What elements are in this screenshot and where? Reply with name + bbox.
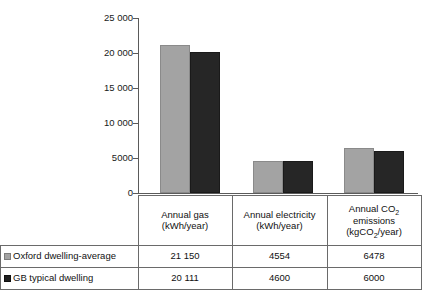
bar-gb-annual-electricity — [283, 161, 313, 193]
header-line-2: (kWh/year) — [256, 220, 302, 231]
bar-gb-annual-co2-emissions — [374, 151, 404, 193]
header-sub-1: 2 — [395, 209, 399, 216]
column-header-annual-electricity: Annual electricity (kWh/year) — [232, 196, 327, 246]
cell-gb-annual-gas: 20 111 — [138, 267, 232, 289]
header-line-1: Annual electricity — [244, 209, 316, 220]
table-row: GB typical dwelling 20 111 4600 6000 — [1, 267, 422, 289]
cell-oxford-annual-co2-emissions: 6478 — [327, 245, 421, 267]
header-line-2: (kWh/year) — [162, 220, 208, 231]
bar-oxford-annual-co2-emissions — [344, 148, 374, 193]
bars-layer — [138, 18, 418, 193]
cell-oxford-annual-gas: 21 150 — [138, 245, 232, 267]
light-swatch-icon — [4, 253, 11, 260]
dark-swatch-icon — [4, 275, 11, 282]
header-line-1: Annual gas — [161, 209, 209, 220]
cell-gb-annual-co2-emissions: 6000 — [327, 267, 421, 289]
y-axis-label-15000: 15 000 — [73, 83, 133, 93]
y-axis-label-20000: 20 000 — [73, 48, 133, 58]
column-header-annual-co2-emissions: Annual CO2 emissions (kgCO2/year) — [327, 196, 421, 246]
data-table-wrap: Annual gas (kWh/year) Annual electricity… — [0, 195, 431, 289]
cell-gb-annual-electricity: 4600 — [232, 267, 327, 289]
y-axis-label-10000: 10 000 — [73, 118, 133, 128]
plot-area: 25 000 20 000 15 000 10 000 5000 0 — [0, 0, 431, 196]
bar-oxford-annual-electricity — [253, 161, 283, 193]
legend-label: GB typical dwelling — [13, 272, 93, 283]
header-line-1: Annual CO — [349, 203, 395, 214]
legend-item-gb-typical-dwelling: GB typical dwelling — [1, 267, 139, 289]
table-header-row: Annual gas (kWh/year) Annual electricity… — [1, 196, 422, 246]
legend-label: Oxford dwelling-average — [13, 250, 116, 261]
legend-item-oxford-dwelling-average: Oxford dwelling-average — [1, 245, 139, 267]
header-spacer-cell — [1, 196, 139, 246]
table-row: Oxford dwelling-average 21 150 4554 6478 — [1, 245, 422, 267]
header-line-3a: (kgCO — [346, 226, 373, 237]
header-line-2: emissions — [353, 215, 395, 226]
bar-oxford-annual-gas — [160, 45, 190, 193]
cell-oxford-annual-electricity: 4554 — [232, 245, 327, 267]
y-axis-label-25000: 25 000 — [73, 13, 133, 23]
column-header-annual-gas: Annual gas (kWh/year) — [138, 196, 232, 246]
header-line-3b: /year) — [378, 226, 402, 237]
y-axis-label-5000: 5000 — [73, 153, 133, 163]
data-table: Annual gas (kWh/year) Annual electricity… — [0, 195, 422, 290]
bar-gb-annual-gas — [190, 52, 220, 193]
